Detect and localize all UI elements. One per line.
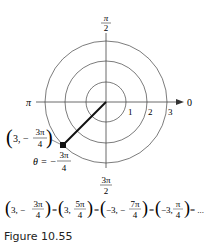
- polar-diagram: 1 2 3 0 π π 2 3π 2 ( 3, − 3π 4 ) θ = − 3…: [0, 0, 207, 252]
- svg-text:7π: 7π: [130, 199, 140, 209]
- svg-text:4: 4: [176, 210, 181, 220]
- tick-3: 3: [168, 107, 173, 117]
- svg-text:5π: 5π: [75, 199, 85, 209]
- svg-text:3,: 3,: [64, 205, 71, 215]
- theta-label-num: 3π: [59, 150, 69, 160]
- svg-text:−3, −: −3, −: [106, 205, 125, 215]
- point-close-paren: ): [46, 126, 53, 149]
- svg-text:=: =: [94, 205, 99, 215]
- theta-label-prefix: θ = −: [33, 156, 56, 167]
- svg-text:4: 4: [133, 210, 138, 220]
- point-marker: [60, 142, 66, 148]
- svg-text:): ): [87, 198, 93, 219]
- angle-0-label: 0: [187, 97, 192, 108]
- svg-text:4: 4: [36, 210, 41, 220]
- radius-segment: [63, 102, 106, 145]
- figure-caption: Figure 10.55: [4, 230, 73, 243]
- angle-3pi2-num: 3π: [101, 175, 111, 185]
- point-label-num: 3π: [35, 127, 45, 137]
- tick-1: 1: [128, 107, 133, 117]
- svg-text:): ): [45, 198, 51, 219]
- angle-3pi2-den: 2: [104, 186, 109, 196]
- theta-label-den: 4: [62, 163, 67, 173]
- point-open-paren: (: [6, 126, 13, 149]
- svg-text:4: 4: [78, 210, 83, 220]
- angle-pi2-num: π: [104, 13, 109, 23]
- tick-2: 2: [148, 107, 153, 117]
- angle-pi-label: π: [26, 97, 32, 108]
- point-label-prefix: 3, −: [13, 133, 29, 144]
- svg-text:3π: 3π: [33, 199, 43, 209]
- svg-text:π: π: [176, 199, 181, 209]
- angle-pi2-den: 2: [104, 23, 109, 33]
- axis-arrow-icon: [176, 99, 184, 105]
- svg-text:= ...: = ...: [190, 205, 204, 215]
- equivalence-equation: ( 3, − 3π 4 ) = ( 3, 5π 4 ) = ( −3, − 7π…: [5, 198, 204, 220]
- svg-text:=: =: [149, 205, 154, 215]
- svg-text:=: =: [52, 205, 57, 215]
- point-label-den: 4: [38, 139, 43, 149]
- svg-text:3, −: 3, −: [11, 205, 25, 215]
- svg-text:−3,: −3,: [161, 205, 173, 215]
- svg-text:): ): [142, 198, 148, 219]
